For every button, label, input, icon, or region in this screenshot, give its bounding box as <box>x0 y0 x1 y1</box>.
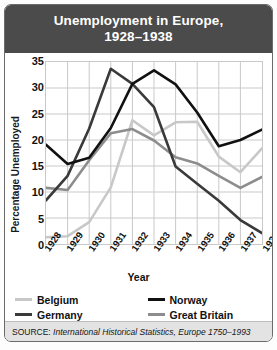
legend-swatch-norway <box>148 298 165 302</box>
y-axis-title-text: Percentage Unemployed <box>10 116 21 233</box>
series-canvas <box>46 62 262 244</box>
y-tick-label: 10 <box>32 187 44 198</box>
chart-figure: Unemployment in Europe,1928–1938 Percent… <box>0 0 277 350</box>
x-axis-ticks: 1928192919301931193219331934193519361937… <box>45 247 263 291</box>
legend-label-great-britain: Great Britain <box>170 309 234 321</box>
legend-label-norway: Norway <box>170 294 208 306</box>
y-tick-label: 35 <box>32 56 44 67</box>
chart-legend: Belgium Norway Germany Great Britain <box>5 290 272 324</box>
source-note: SOURCE: International Historical Statist… <box>5 327 251 337</box>
chart-title-bar: Unemployment in Europe,1928–1938 <box>5 5 272 53</box>
y-tick-label: 25 <box>32 108 44 119</box>
legend-swatch-germany <box>15 313 32 317</box>
legend-swatch-great-britain <box>148 313 165 317</box>
source-prefix: SOURCE: <box>12 327 53 337</box>
y-axis-ticks: 05101520253035 <box>22 53 44 253</box>
chart-frame: Unemployment in Europe,1928–1938 Percent… <box>4 4 273 342</box>
legend-label-germany: Germany <box>37 309 83 321</box>
plot-area-wrapper <box>45 61 263 245</box>
title-line-1: Unemployment in Europe, <box>54 13 224 28</box>
plot-area <box>45 61 263 245</box>
title-line-2: 1928–1938 <box>104 29 172 44</box>
y-tick-label: 5 <box>38 213 44 224</box>
legend-label-belgium: Belgium <box>37 294 78 306</box>
y-tick-label: 15 <box>32 161 44 172</box>
page-title: Unemployment in Europe,1928–1938 <box>54 13 224 45</box>
legend-swatch-belgium <box>15 298 32 302</box>
y-axis-title: Percentage Unemployed <box>7 99 23 249</box>
y-tick-label: 20 <box>32 134 44 145</box>
legend-row-2: Germany Great Britain <box>15 307 262 322</box>
x-axis-title: Year <box>5 271 272 283</box>
x-axis-title-text: Year <box>127 271 149 283</box>
legend-item-norway[interactable]: Norway <box>130 294 263 306</box>
legend-item-germany[interactable]: Germany <box>15 309 130 321</box>
source-citation: International Historical Statistics, Eur… <box>53 327 251 337</box>
source-bar: SOURCE: International Historical Statist… <box>5 321 272 341</box>
legend-row-1: Belgium Norway <box>15 292 262 307</box>
y-tick-label: 30 <box>32 82 44 93</box>
legend-item-belgium[interactable]: Belgium <box>15 294 130 306</box>
chart-body: Percentage Unemployed 05101520253035 192… <box>5 53 272 290</box>
legend-item-great-britain[interactable]: Great Britain <box>130 309 263 321</box>
